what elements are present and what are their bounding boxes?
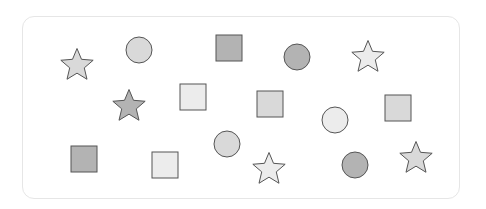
star-very-light-icon xyxy=(352,41,384,72)
square-light-icon xyxy=(257,91,283,117)
circle-light-icon xyxy=(126,37,152,63)
circle-dark-icon xyxy=(342,152,368,178)
star-light-icon xyxy=(400,142,432,173)
star-light-icon xyxy=(61,49,93,80)
circle-dark-icon xyxy=(284,44,310,70)
square-dark-icon xyxy=(216,35,242,61)
square-very-light-icon xyxy=(180,84,206,110)
canvas xyxy=(0,0,486,209)
star-very-light-icon xyxy=(253,153,285,184)
star-dark-icon xyxy=(113,90,145,121)
square-very-light-icon xyxy=(152,152,178,178)
circle-light-icon xyxy=(214,131,240,157)
circle-very-light-icon xyxy=(322,107,348,133)
square-dark-icon xyxy=(71,146,97,172)
shapes-layer xyxy=(0,0,486,209)
square-light-icon xyxy=(385,95,411,121)
